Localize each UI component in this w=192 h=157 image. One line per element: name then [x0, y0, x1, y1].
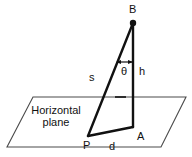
label-vertex-a: A: [137, 131, 144, 142]
segment-d-base: [88, 127, 133, 136]
label-horizontal-plane-line1: Horizontal: [21, 104, 91, 116]
label-horizontal-plane-line2: plane: [21, 116, 91, 128]
label-vertex-p: P: [83, 140, 90, 151]
label-side-s: s: [89, 72, 95, 83]
label-angle-theta: θ: [121, 66, 127, 77]
label-vertex-b: B: [129, 4, 136, 15]
vertex-b-dot-icon: [130, 20, 136, 26]
label-side-d: d: [109, 141, 115, 152]
diagram-canvas: [0, 0, 192, 157]
label-side-h: h: [139, 66, 145, 77]
elevation-angle-diagram: B A P s h d θ Horizontal plane: [0, 0, 192, 157]
